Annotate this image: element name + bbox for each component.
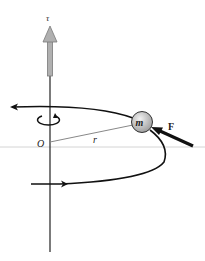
top-path-arc xyxy=(12,106,133,118)
mass-label: m xyxy=(136,117,144,128)
torque-arrow xyxy=(43,26,57,76)
force-label: F xyxy=(168,121,174,132)
bottom-path-loop xyxy=(31,130,165,184)
counterclockwise-rotation-icon xyxy=(38,113,60,125)
origin-label: O xyxy=(37,138,44,149)
radius-line xyxy=(50,125,133,142)
force-arrow-shaft xyxy=(160,131,193,146)
radius-label: r xyxy=(93,134,97,145)
torque-label: τ xyxy=(46,13,50,23)
torque-diagram: τ O r m F xyxy=(0,0,205,261)
